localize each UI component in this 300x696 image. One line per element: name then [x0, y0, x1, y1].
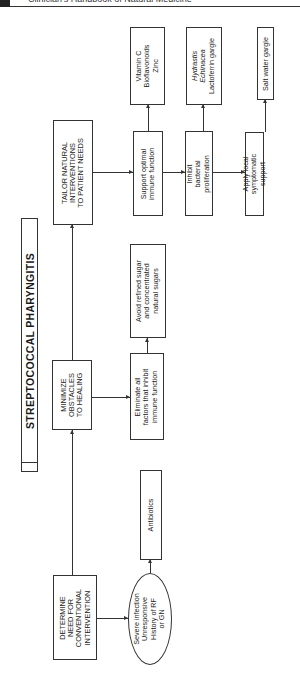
salt-water-label: Salt water gargle	[261, 37, 269, 91]
header-tab-block	[0, 0, 10, 7]
label-line: TO PATIENT NEEDS	[77, 138, 85, 208]
step-tailor-label: TAILOR NATURAL INTERVENTIONS TO PATIENT …	[61, 138, 86, 208]
label-line: immune function	[151, 368, 159, 424]
vitamin-label: Vitamin C Bioflavonoids Zinc	[135, 45, 160, 88]
connector-support-vitamins	[148, 105, 149, 131]
connector-inhibit-herbs	[203, 105, 204, 131]
step-determine-label: DETERMINE NEED FOR CONVENTIONAL INTERVEN…	[59, 588, 92, 646]
label-line: immune function	[148, 147, 156, 200]
running-header: Clinician's Handbook of Natural Medicine	[0, 0, 300, 7]
step-inhibit-bacterial: Inhibit bacterial proliferation	[185, 131, 213, 216]
spine-line-minimize-determine	[72, 430, 73, 575]
arrow-up-icon	[145, 338, 149, 342]
running-title: Clinician's Handbook of Natural Medicine	[28, 0, 192, 4]
step-minimize-obstacles: MINIMIZE OBSTACLES TO HEALING	[52, 360, 92, 430]
header-rule	[10, 6, 300, 7]
label-line: or GN	[158, 593, 166, 645]
support-label: Support optimal immune function	[140, 147, 157, 200]
condition-label: Severe infection Unresponsive History of…	[133, 593, 167, 645]
step-apply-local: Apply local symptomatic support	[245, 132, 264, 216]
detail-vitamin-c: Vitamin C Bioflavonoids Zinc	[130, 27, 165, 105]
label-line: natural sugars	[152, 260, 160, 322]
condition-ellipse: Severe infection Unresponsive History of…	[128, 573, 172, 665]
spine-line-tailor-minimize	[72, 225, 73, 360]
connector-tailor-support	[93, 172, 133, 173]
title-bar: STREPTOCOCCAL PHARYNGITIS	[21, 218, 38, 463]
detail-hydrastis: Hydrastis Echinacea Lactoferrin gargle	[186, 27, 222, 105]
connector-apply-gargle	[265, 100, 266, 132]
diagram-title: STREPTOCOCCAL PHARYNGITIS	[25, 253, 33, 429]
step-determine-need: DETERMINE NEED FOR CONVENTIONAL INTERVEN…	[53, 575, 97, 660]
title-bar-tab	[21, 462, 38, 472]
arrow-up-icon	[70, 430, 74, 434]
avoid-sugar-label: Avoid refined sugar and concentrated nat…	[135, 260, 160, 322]
step-eliminate-factors: Eliminate all factors that inhibit immun…	[130, 353, 164, 440]
herbs-label: Hydrastis Echinacea Lactoferrin gargle	[191, 38, 216, 94]
label-line: Zinc	[152, 45, 160, 88]
antibiotics-label: Antibiotics	[147, 499, 155, 532]
label-line: support	[259, 154, 267, 194]
label-line: Lactoferrin gargle	[208, 38, 216, 94]
action-antibiotics: Antibiotics	[140, 470, 162, 560]
inhibit-label: Inhibit bacterial proliferation	[186, 155, 211, 193]
connector-minimize-eliminate	[92, 397, 130, 398]
label-line: TO HEALING	[76, 373, 84, 418]
apply-label: Apply local symptomatic support	[242, 154, 267, 194]
step-minimize-label: MINIMIZE OBSTACLES TO HEALING	[60, 373, 85, 418]
detail-avoid-sugar: Avoid refined sugar and concentrated nat…	[130, 244, 166, 338]
label-line: proliferation	[203, 155, 211, 193]
detail-salt-water: Salt water gargle	[257, 27, 274, 100]
step-support-immune: Support optimal immune function	[133, 131, 163, 216]
label-line: INTERVENTION	[83, 588, 91, 646]
eliminate-label: Eliminate all factors that inhibit immun…	[134, 368, 159, 424]
step-tailor-interventions: TAILOR NATURAL INTERVENTIONS TO PATIENT …	[53, 120, 93, 225]
